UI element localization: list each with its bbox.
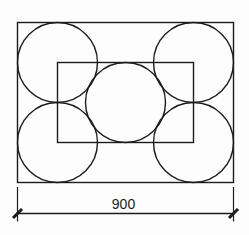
dimension-group: 900: [13, 187, 238, 222]
dimension-label: 900: [112, 196, 136, 212]
geometry-diagram: 900: [0, 0, 249, 235]
outer-rectangle: [18, 23, 234, 183]
circle-center: [86, 63, 166, 143]
inner-rectangle: [58, 63, 194, 143]
circles-group: [18, 23, 234, 183]
figure-canvas: 900: [0, 0, 249, 235]
